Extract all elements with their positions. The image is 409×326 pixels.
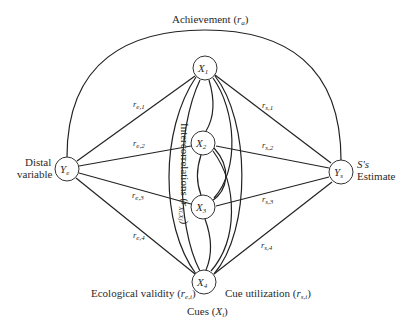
curve-x2-x3 — [197, 155, 201, 195]
label-rs4: rs,4 — [261, 240, 273, 252]
curve-x1-x4-right — [214, 76, 242, 274]
label-rs3: rs,3 — [262, 194, 274, 206]
curve-x3-x4 — [205, 219, 210, 270]
distal-label-line2: variable — [17, 168, 53, 180]
edge-rs4 — [214, 182, 332, 274]
label-rs2: rs,2 — [262, 140, 274, 152]
lens-model-diagram: Achievement (ra) Ye Ys X1 X2 X3 X4 — [0, 0, 409, 326]
node-ys: Ys — [329, 160, 353, 184]
node-x4: X4 — [192, 270, 216, 294]
cue-utilization-label: Cue utilization (rs,i) — [225, 287, 311, 301]
label-re2: re,2 — [133, 138, 145, 150]
node-ye: Ye — [55, 157, 79, 181]
cues-label: Cues (Xi) — [187, 305, 228, 319]
curve-x1-x3-right — [213, 78, 232, 198]
estimate-label-line2: Estimate — [357, 170, 396, 182]
label-re1: re,1 — [133, 99, 145, 111]
label-rs1: rs,1 — [262, 100, 273, 112]
node-x2: X2 — [191, 131, 215, 155]
curve-x2-x3-cross — [212, 148, 226, 201]
node-x1: X1 — [193, 56, 217, 80]
achievement-label: Achievement (ra) — [172, 13, 249, 27]
edge-re2 — [79, 146, 191, 166]
curve-x1-x2 — [206, 80, 213, 131]
intercorrelations-label: Intercorrelations (rXi,Xj) — [177, 123, 191, 225]
label-re3: re,3 — [132, 190, 144, 202]
distal-label-line1: Distal — [25, 156, 51, 168]
estimate-label-line1: S's — [357, 158, 369, 170]
edge-re4 — [76, 178, 195, 274]
ecological-validity-label: Ecological validity (re,i) — [91, 287, 196, 301]
node-x3: X3 — [191, 195, 215, 219]
